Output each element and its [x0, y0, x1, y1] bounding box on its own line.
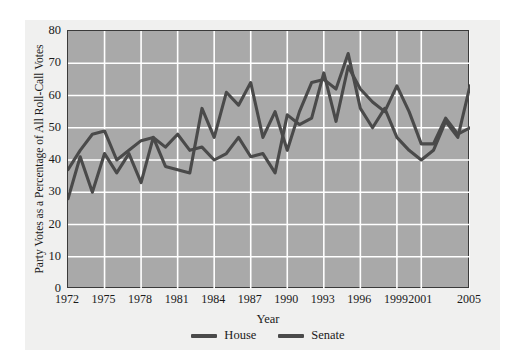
y-axis-label-text: Party Votes as a Percentage of All Roll-…	[33, 44, 45, 273]
y-axis-tick-label: 70	[49, 56, 62, 69]
x-axis-tick-label: 2005	[457, 293, 481, 305]
chart-legend: HouseSenate	[67, 328, 469, 343]
x-axis-tick-label: 1987	[238, 293, 262, 305]
x-axis-tick-label: 1990	[274, 293, 298, 305]
y-axis-tick-label: 20	[49, 217, 62, 230]
x-axis-label: Year	[67, 312, 469, 327]
y-axis-tick-label: 10	[49, 250, 62, 263]
plot-area	[67, 30, 469, 288]
x-axis-tick-label: 1978	[128, 293, 152, 305]
y-axis-tick-label: 60	[49, 88, 62, 101]
x-axis-tick-label: 1996	[347, 293, 371, 305]
legend-swatch-icon	[278, 334, 304, 338]
x-axis-tick-label: 1999	[384, 293, 408, 305]
y-axis-tick-label: 40	[49, 153, 62, 166]
x-axis-tick-label: 1981	[165, 293, 189, 305]
x-axis-tick-label: 1993	[311, 293, 335, 305]
chart-figure: Party Votes as a Percentage of All Roll-…	[25, 20, 500, 350]
legend-item[interactable]: Senate	[278, 328, 344, 343]
y-axis-tick-label: 50	[49, 121, 62, 134]
x-axis-tick-label: 1972	[55, 293, 79, 305]
y-axis-tick-label: 30	[49, 185, 62, 198]
y-axis-label: Party Votes as a Percentage of All Roll-…	[31, 30, 47, 288]
y-axis-tick-label: 80	[49, 24, 62, 37]
x-axis-tick-label: 1984	[201, 293, 225, 305]
x-axis-tick-label: 2001	[408, 293, 432, 305]
line-chart-svg	[68, 31, 470, 289]
legend-label: Senate	[311, 328, 344, 343]
plot-wrapper: 01020304050607080 1972197519781981198419…	[67, 30, 469, 288]
legend-swatch-icon	[191, 334, 217, 338]
legend-label: House	[224, 328, 256, 343]
legend-item[interactable]: House	[191, 328, 256, 343]
x-axis-tick-label: 1975	[92, 293, 116, 305]
